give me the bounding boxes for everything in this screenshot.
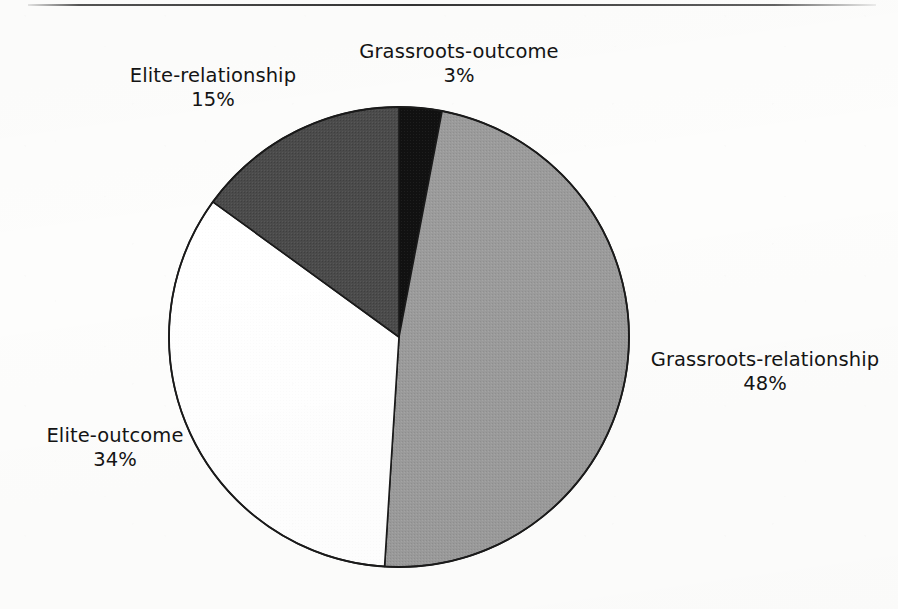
pie-label-name: Elite-relationship (103, 64, 323, 88)
scanned-page: Grassroots-outcome 3% Elite-relationship… (0, 0, 898, 609)
pie-label-value: 3% (334, 64, 584, 88)
pie-slice-group (169, 107, 629, 567)
pie-label-name: Grassroots-outcome (334, 40, 584, 64)
pie-label-grassroots-outcome: Grassroots-outcome 3% (334, 40, 584, 88)
pie-label-elite-outcome: Elite-outcome 34% (20, 424, 210, 472)
pie-label-value: 15% (103, 88, 323, 112)
page-top-rule (28, 4, 876, 6)
pie-label-name: Grassroots-relationship (636, 348, 894, 372)
pie-label-value: 48% (636, 372, 894, 396)
pie-label-name: Elite-outcome (20, 424, 210, 448)
pie-label-grassroots-relationship: Grassroots-relationship 48% (636, 348, 894, 396)
pie-label-value: 34% (20, 448, 210, 472)
pie-label-elite-relationship: Elite-relationship 15% (103, 64, 323, 112)
